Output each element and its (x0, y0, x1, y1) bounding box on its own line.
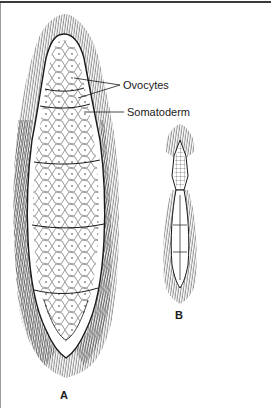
label-ovocytes: Ovocytes (123, 80, 169, 91)
label-somatoderm: Somatoderm (127, 107, 190, 118)
figure-a (13, 14, 119, 378)
panel-label-a: A (60, 390, 68, 401)
figure-frame: Ovocytes Somatoderm A B (0, 0, 271, 408)
illustration (0, 0, 271, 408)
figure-b (163, 124, 196, 304)
panel-label-b: B (175, 310, 183, 321)
